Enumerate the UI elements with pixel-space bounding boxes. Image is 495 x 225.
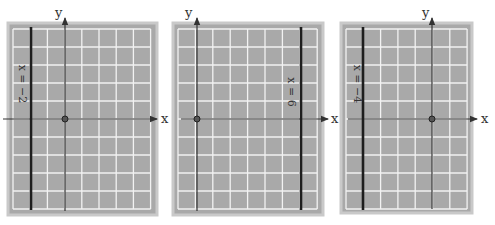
graph-x-eq-neg4: x y x = −4 xyxy=(341,5,489,213)
origin-point xyxy=(62,116,68,122)
y-axis-label: y xyxy=(421,5,430,20)
x-axis-label: x xyxy=(161,111,169,126)
graph-x-eq-6: x y x = 6 xyxy=(173,5,339,215)
origin-point xyxy=(194,116,200,122)
equation-label: x = −4 xyxy=(351,65,364,104)
vertical-lines-figure: x y x = −2 x y x = 6 x y x = −4 xyxy=(0,0,495,225)
x-axis-label: x xyxy=(481,111,489,126)
equation-label: x = −2 xyxy=(16,65,29,104)
y-axis-label: y xyxy=(184,5,193,20)
graph-panel xyxy=(341,23,472,213)
x-axis-label: x xyxy=(331,111,339,126)
origin-point xyxy=(429,116,435,122)
y-axis-label: y xyxy=(54,5,63,20)
equation-label: x = 6 xyxy=(285,77,298,106)
graph-x-eq-neg2: x y x = −2 xyxy=(3,5,169,215)
